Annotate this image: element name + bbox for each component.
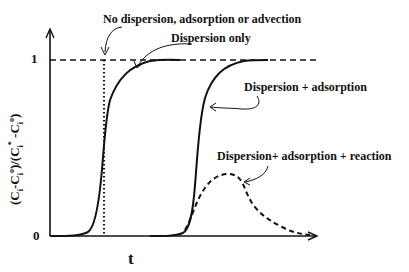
y-tick-1: 1: [31, 52, 38, 65]
annotation-no-dispersion: No dispersion, adsorption or advection: [103, 13, 301, 25]
breakthrough-diagram: 1 0 (Ci-Cio)/(Ci* -Cio) t No dispersion,…: [0, 0, 409, 272]
no-dispersion-pointer-arrow: [105, 27, 122, 52]
y-axis-label: (Ci-Cio)/(Ci* -Cio): [8, 114, 25, 205]
dispersion-adsorption-pointer-arrow: [211, 96, 259, 109]
annotation-dispersion-adsorption: Dispersion + adsorption: [244, 81, 367, 93]
dispersion-adsorption-reaction-curve: [185, 174, 310, 235]
dispersion-only-curve: [50, 60, 180, 236]
annotation-dispersion-only: Dispersion only: [171, 32, 251, 44]
y-tick-0: 0: [33, 229, 40, 242]
annotation-dispersion-adsorption-reaction: Dispersion+ adsorption + reaction: [217, 150, 391, 162]
x-axis-label: t: [128, 250, 134, 267]
